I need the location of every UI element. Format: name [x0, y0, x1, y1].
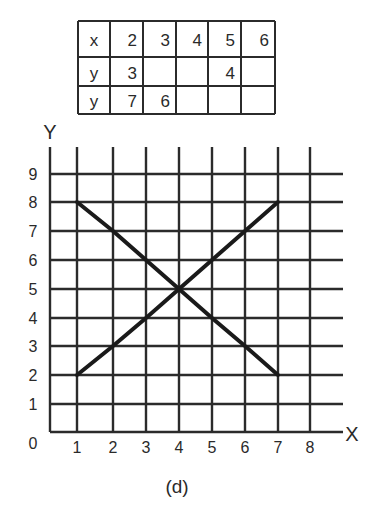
x-tick-label: 2 [109, 439, 118, 456]
table-cell: 5 [226, 31, 235, 50]
table-row-label: y [90, 64, 99, 83]
x-tick-label: 6 [241, 439, 250, 456]
table-cell: 2 [128, 31, 137, 50]
x-tick-label: 4 [175, 439, 184, 456]
table-cell: 3 [128, 64, 137, 83]
y-tick-label: 5 [29, 281, 38, 298]
x-axis-label: X [345, 423, 358, 445]
y-tick-label: 7 [29, 223, 38, 240]
y-tick-label: 9 [29, 166, 38, 183]
figure: x23456y34y76 12345678123456789 Y X 0 (d) [0, 0, 382, 525]
value-table: x23456y34y76 [78, 21, 275, 114]
y-tick-label: 2 [29, 367, 38, 384]
y-tick-label: 3 [29, 338, 38, 355]
table-row-label: y [90, 92, 99, 111]
x-tick-label: 5 [208, 439, 217, 456]
y-tick-label: 8 [29, 194, 38, 211]
table-cell: 4 [226, 64, 235, 83]
x-tick-label: 1 [73, 439, 82, 456]
figure-caption: (d) [165, 476, 188, 497]
y-tick-label: 4 [29, 310, 38, 327]
table-cell: 6 [260, 31, 269, 50]
x-tick-label: 7 [274, 439, 283, 456]
table-cell: 7 [128, 92, 137, 111]
chart-grid: 12345678123456789 [29, 147, 343, 456]
table-row-label: x [90, 31, 99, 50]
y-tick-label: 6 [29, 252, 38, 269]
x-tick-label: 8 [306, 439, 315, 456]
y-tick-label: 1 [29, 396, 38, 413]
x-tick-label: 3 [142, 439, 151, 456]
y-axis-label: Y [43, 121, 56, 143]
table-cell: 3 [161, 31, 170, 50]
table-cell: 6 [161, 92, 170, 111]
origin-label: 0 [29, 435, 38, 452]
table-cell: 4 [193, 31, 202, 50]
